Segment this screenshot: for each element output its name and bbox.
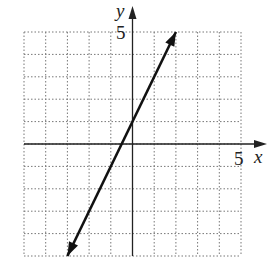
- y-axis-label: y: [114, 0, 125, 21]
- axes: [24, 6, 267, 256]
- y-tick-label-5: 5: [116, 22, 126, 43]
- x-tick-label-5: 5: [234, 148, 244, 169]
- x-axis-label: x: [253, 146, 263, 167]
- coordinate-plane: y 5 5 x: [0, 0, 279, 265]
